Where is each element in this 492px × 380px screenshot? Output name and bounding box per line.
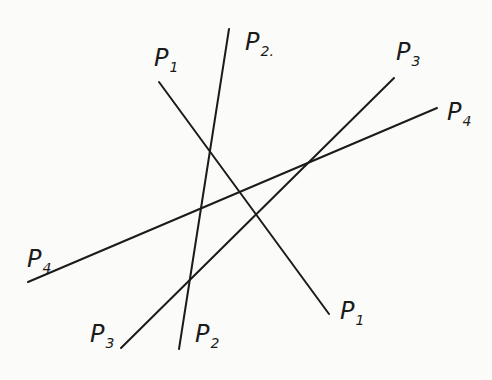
label-p1-bottom: P1 [340,299,364,327]
label-p2-top: P2. [245,30,274,58]
diagram-canvas: P1 P2. P3 P4 P4 P3 P2 P1 [0,0,492,380]
label-p3-bottom: P3 [90,322,114,350]
label-p2-bottom: P2 [195,322,219,350]
label-p1-top: P1 [154,46,178,74]
label-p4-bottom: P4 [27,247,51,275]
line-p1 [159,82,329,314]
line-p4 [28,108,437,282]
label-p4-top: P4 [447,100,471,128]
label-p3-top: P3 [396,40,420,68]
line-p2 [179,29,229,349]
